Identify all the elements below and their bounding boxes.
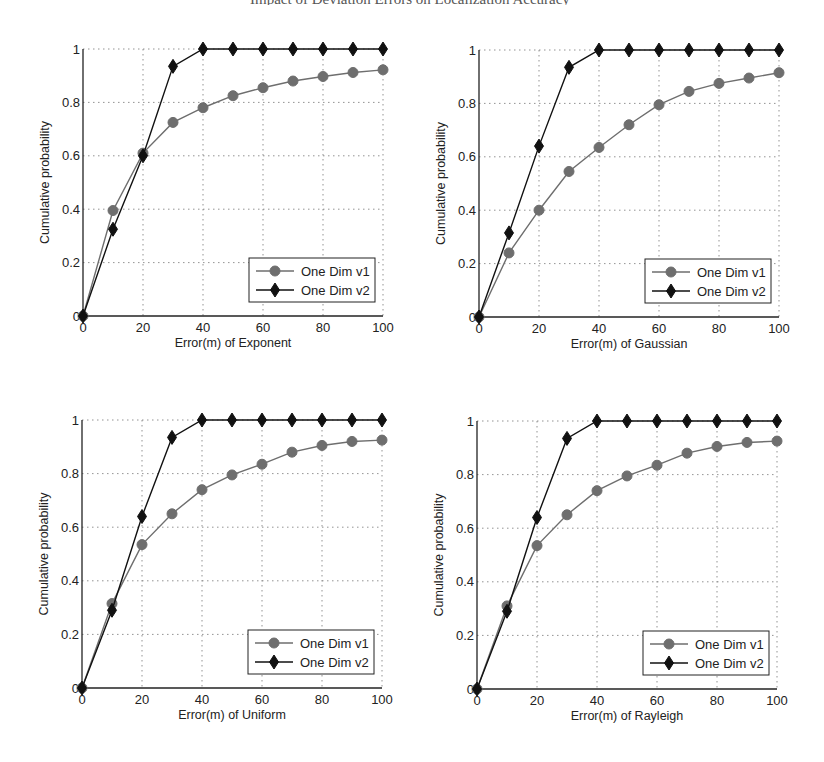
diamond-marker-icon bbox=[348, 413, 357, 427]
diamond-marker-icon bbox=[168, 430, 177, 444]
x-tick-label: 80 bbox=[710, 693, 724, 708]
circle-marker-icon bbox=[287, 447, 297, 457]
x-tick-label: 40 bbox=[592, 321, 606, 336]
circle-marker-icon bbox=[228, 91, 238, 101]
circle-marker-icon bbox=[654, 100, 664, 110]
x-axis-label: Error(m) of Gaussian bbox=[571, 337, 688, 351]
y-tick-label: 0.6 bbox=[456, 521, 474, 536]
circle-marker-icon bbox=[198, 103, 208, 113]
diamond-marker-icon bbox=[743, 414, 752, 428]
x-tick-label: 100 bbox=[766, 693, 788, 708]
diamond-marker-icon bbox=[349, 42, 358, 56]
y-tick-label: 0.8 bbox=[458, 96, 476, 111]
circle-marker-icon bbox=[682, 448, 692, 458]
circle-marker-icon bbox=[594, 142, 604, 152]
circle-marker-icon bbox=[774, 68, 784, 78]
x-tick-label: 20 bbox=[135, 692, 149, 707]
x-axis-label: Error(m) of Uniform bbox=[178, 708, 286, 722]
diamond-marker-icon bbox=[289, 42, 298, 56]
circle-marker-icon bbox=[377, 435, 387, 445]
diamond-marker-icon bbox=[775, 43, 784, 57]
y-tick-label: 0.6 bbox=[62, 148, 80, 163]
circle-marker-icon bbox=[288, 76, 298, 86]
diamond-marker-icon bbox=[713, 414, 722, 428]
circle-marker-icon bbox=[108, 206, 118, 216]
circle-marker-icon bbox=[347, 436, 357, 446]
legend: One Dim v1One Dim v2 bbox=[645, 259, 771, 303]
chart-rayleigh: 02040608010000.20.40.60.81Error(m) of Ra… bbox=[412, 381, 824, 762]
diamond-marker-icon bbox=[198, 413, 207, 427]
legend-label: One Dim v1 bbox=[695, 637, 764, 652]
y-tick-label: 1 bbox=[467, 414, 474, 429]
diamond-marker-icon bbox=[258, 413, 267, 427]
circle-marker-icon bbox=[624, 120, 634, 130]
y-axis-label: Cumulative probability bbox=[432, 493, 446, 617]
x-tick-label: 80 bbox=[712, 321, 726, 336]
x-tick-label: 40 bbox=[195, 692, 209, 707]
circle-marker-icon bbox=[742, 437, 752, 447]
x-axis-label: Error(m) of Rayleigh bbox=[571, 709, 684, 723]
diamond-marker-icon bbox=[653, 414, 662, 428]
diamond-marker-icon bbox=[259, 42, 268, 56]
circle-marker-icon bbox=[772, 436, 782, 446]
x-tick-label: 20 bbox=[136, 320, 150, 335]
x-tick-label: 100 bbox=[372, 320, 394, 335]
x-tick-label: 80 bbox=[315, 692, 329, 707]
circle-marker-icon bbox=[197, 485, 207, 495]
x-tick-label: 20 bbox=[530, 693, 544, 708]
diamond-marker-icon bbox=[169, 59, 178, 73]
diamond-marker-icon bbox=[623, 414, 632, 428]
y-tick-label: 0.8 bbox=[456, 467, 474, 482]
x-tick-label: 80 bbox=[316, 320, 330, 335]
diamond-marker-icon bbox=[199, 42, 208, 56]
diamond-marker-icon bbox=[563, 431, 572, 445]
x-tick-label: 20 bbox=[532, 321, 546, 336]
circle-marker-icon bbox=[269, 638, 279, 648]
circle-marker-icon bbox=[652, 460, 662, 470]
circle-marker-icon bbox=[564, 166, 574, 176]
circle-marker-icon bbox=[592, 486, 602, 496]
diamond-marker-icon bbox=[745, 43, 754, 57]
diamond-marker-icon bbox=[229, 42, 238, 56]
circle-marker-icon bbox=[504, 248, 514, 258]
y-tick-label: 0.2 bbox=[458, 256, 476, 271]
y-tick-label: 0.2 bbox=[61, 627, 79, 642]
chart-uniform: 02040608010000.20.40.60.81Error(m) of Un… bbox=[0, 381, 412, 762]
legend-label: One Dim v1 bbox=[301, 264, 370, 279]
diamond-marker-icon bbox=[773, 414, 782, 428]
diamond-marker-icon bbox=[318, 413, 327, 427]
circle-marker-icon bbox=[562, 510, 572, 520]
legend: One Dim v1One Dim v2 bbox=[248, 630, 374, 674]
circle-marker-icon bbox=[378, 65, 388, 75]
x-tick-label: 40 bbox=[590, 693, 604, 708]
y-tick-label: 0.8 bbox=[61, 466, 79, 481]
legend-label: One Dim v2 bbox=[695, 656, 764, 671]
diamond-marker-icon bbox=[683, 414, 692, 428]
x-tick-label: 40 bbox=[196, 320, 210, 335]
diamond-marker-icon bbox=[565, 60, 574, 74]
diamond-marker-icon bbox=[319, 42, 328, 56]
y-tick-label: 0.2 bbox=[456, 628, 474, 643]
circle-marker-icon bbox=[714, 78, 724, 88]
y-tick-label: 0.4 bbox=[62, 202, 80, 217]
diamond-marker-icon bbox=[593, 414, 602, 428]
diamond-marker-icon bbox=[378, 413, 387, 427]
circle-marker-icon bbox=[257, 459, 267, 469]
y-tick-label: 1 bbox=[72, 413, 79, 428]
circle-marker-icon bbox=[227, 470, 237, 480]
x-axis-label: Error(m) of Exponent bbox=[175, 336, 292, 350]
y-tick-label: 0.4 bbox=[61, 573, 79, 588]
legend-label: One Dim v2 bbox=[301, 283, 370, 298]
diamond-marker-icon bbox=[288, 413, 297, 427]
diamond-marker-icon bbox=[655, 43, 664, 57]
x-tick-label: 100 bbox=[768, 321, 790, 336]
circle-marker-icon bbox=[532, 541, 542, 551]
legend: One Dim v1One Dim v2 bbox=[643, 631, 769, 675]
diamond-marker-icon bbox=[379, 42, 388, 56]
circle-marker-icon bbox=[744, 73, 754, 83]
y-tick-label: 0.4 bbox=[458, 203, 476, 218]
circle-marker-icon bbox=[167, 509, 177, 519]
circle-marker-icon bbox=[348, 67, 358, 77]
circle-marker-icon bbox=[666, 267, 676, 277]
y-axis-label: Cumulative probability bbox=[434, 121, 448, 245]
